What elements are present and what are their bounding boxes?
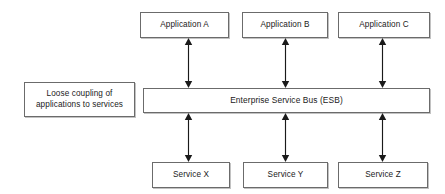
- enterprise-service-bus-label: Enterprise Service Bus (ESB): [227, 95, 346, 106]
- loose-coupling-note-box: Loose coupling of applications to servic…: [24, 82, 135, 117]
- loose-coupling-note-label: Loose coupling of applications to servic…: [33, 89, 126, 111]
- connector-application-a-to-esb: [182, 38, 195, 88]
- connector-esb-to-service-x: [182, 113, 195, 162]
- service-y-box[interactable]: Service Y: [243, 162, 328, 188]
- connector-esb-to-service-y: [279, 113, 292, 162]
- application-c-label: Application C: [356, 20, 412, 31]
- connector-esb-to-service-z: [376, 113, 389, 162]
- enterprise-service-bus-box[interactable]: Enterprise Service Bus (ESB): [143, 88, 430, 113]
- application-c-box[interactable]: Application C: [338, 12, 430, 38]
- connector-application-c-to-esb: [376, 38, 389, 88]
- esb-diagram: Application A Application B Application …: [0, 0, 445, 194]
- application-b-box[interactable]: Application B: [242, 12, 328, 38]
- service-z-label: Service Z: [362, 170, 403, 181]
- application-b-label: Application B: [257, 20, 312, 31]
- service-x-label: Service X: [170, 170, 212, 181]
- connector-application-b-to-esb: [279, 38, 292, 88]
- service-z-box[interactable]: Service Z: [338, 162, 428, 188]
- application-a-box[interactable]: Application A: [140, 12, 229, 38]
- service-y-label: Service Y: [265, 170, 307, 181]
- application-a-label: Application A: [157, 20, 212, 31]
- service-x-box[interactable]: Service X: [152, 162, 230, 188]
